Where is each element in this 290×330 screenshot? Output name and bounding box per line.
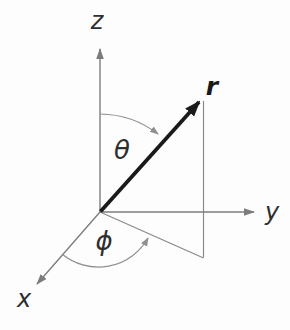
spherical-coordinates-figure: z y x r θ ϕ [0, 0, 290, 330]
vector-label: r [206, 72, 220, 101]
phi-label: ϕ [95, 226, 112, 256]
theta-angle-arc [100, 114, 158, 134]
diagram-canvas: z y x r θ ϕ [0, 0, 290, 330]
z-axis-label: z [90, 7, 105, 35]
y-axis-label: y [264, 198, 280, 226]
x-axis-line [37, 212, 100, 284]
theta-label: θ [114, 135, 130, 165]
xy-projection-line [100, 212, 204, 258]
x-axis-label: x [16, 285, 32, 313]
